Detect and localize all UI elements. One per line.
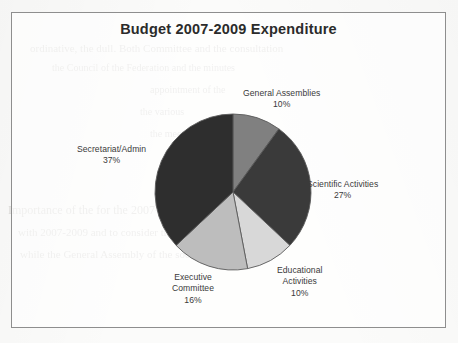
pie-label-text-2: Activities	[277, 276, 322, 287]
pie-label-secretariat-admin: Secretariat/Admin 37%	[77, 144, 146, 167]
pie-label-text: Executive	[174, 272, 212, 282]
pie-label-text: Secretariat/Admin	[77, 144, 146, 154]
pie-label-executive-committee: Executive Committee 16%	[172, 272, 214, 306]
pie-label-general-assemblies: General Assemblies 10%	[243, 88, 320, 111]
pie-chart-svg	[12, 13, 447, 329]
pie-label-value: 27%	[307, 190, 378, 201]
pie-slice-group	[155, 114, 311, 270]
pie-label-value: 10%	[277, 288, 322, 299]
pie-label-text-2: Committee	[172, 283, 214, 294]
pie-label-value: 10%	[243, 99, 320, 110]
pie-label-text: Educational	[277, 265, 322, 275]
pie-label-value: 37%	[77, 155, 146, 166]
pie-chart-plot-area	[12, 13, 447, 329]
pie-label-text: Scientific Activities	[307, 179, 378, 189]
pie-label-scientific-activities: Scientific Activities 27%	[307, 179, 378, 202]
pie-label-text: General Assemblies	[243, 88, 320, 98]
pie-label-educational-activities: Educational Activities 10%	[277, 265, 322, 299]
chart-frame: Budget 2007-2009 Expenditure General Ass…	[11, 12, 446, 328]
pie-label-value: 16%	[172, 295, 214, 306]
